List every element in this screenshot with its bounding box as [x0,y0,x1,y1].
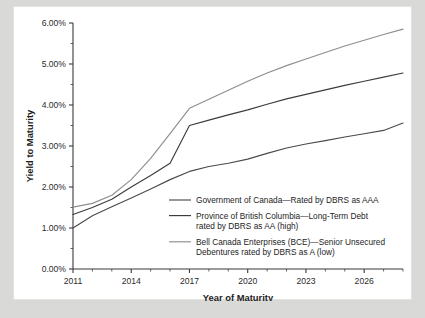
series-line [73,29,403,207]
series-line [73,73,403,214]
x-axis-title: Year of Maturity [203,292,274,301]
y-tick-label: 0.00% [42,264,67,274]
x-axis-tick-labels: 201120142017202020232026 [64,276,374,286]
x-tick-label: 2017 [180,276,199,286]
y-axis-ticks [69,23,73,269]
x-tick-label: 2023 [296,276,315,286]
y-axis-title: Yield to Maturity [24,109,35,182]
chart-legend: Government of Canada—Rated by DBRS as AA… [169,195,385,257]
x-tick-label: 2026 [355,276,374,286]
yield-curve-chart: 0.00%1.00%2.00%3.00%4.00%5.00%6.00% 2011… [14,7,413,301]
legend-label: rated by DBRS as AA (high) [196,221,299,231]
y-axis-tick-labels: 0.00%1.00%2.00%3.00%4.00%5.00%6.00% [42,18,67,274]
y-tick-label: 1.00% [42,223,67,233]
x-tick-label: 2020 [238,276,257,286]
y-tick-label: 5.00% [42,59,67,69]
y-tick-label: 2.00% [42,182,67,192]
x-tick-label: 2014 [122,276,141,286]
chart-figure: 0.00%1.00%2.00%3.00%4.00%5.00%6.00% 2011… [13,6,412,300]
legend-label: Bell Canada Enterprises (BCE)—Senior Uns… [196,237,385,247]
legend-label: Government of Canada—Rated by DBRS as AA… [196,195,379,205]
y-tick-label: 6.00% [42,18,67,28]
x-tick-label: 2011 [64,276,83,286]
legend-label: Province of British Columbia—Long-Term D… [196,211,369,221]
y-tick-label: 3.00% [42,141,67,151]
y-tick-label: 4.00% [42,100,67,110]
x-axis-ticks [73,269,403,273]
legend-label: Debentures rated by DBRS as A (low) [196,247,335,257]
